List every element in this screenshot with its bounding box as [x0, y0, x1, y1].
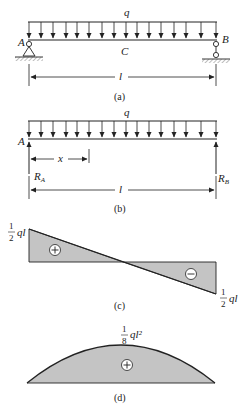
shear-right-value: 1 2 ql [220, 287, 238, 309]
panel-b-free-body-diagram: q A RA RB [17, 106, 230, 215]
point-label-a: A [17, 135, 25, 147]
panel-a-simply-supported-beam: q A [15, 6, 230, 103]
span-dimension-a [29, 64, 216, 86]
support-label-a: A [17, 36, 25, 48]
svg-text:1: 1 [122, 324, 127, 334]
position-label-x: x [57, 152, 63, 164]
caption-c: (c) [114, 300, 125, 312]
span-label-l: l [119, 183, 122, 195]
span-dimension-b [29, 176, 216, 199]
panel-d-bending-moment-diagram: 1 8 ql² (d) [27, 324, 215, 404]
panel-c-shear-force-diagram: 1 2 ql 1 2 ql (c) [8, 221, 238, 312]
svg-text:1: 1 [221, 287, 226, 297]
caption-d: (d) [114, 392, 126, 404]
reaction-label-rb: RB [217, 172, 230, 186]
distributed-load-arrows [29, 121, 216, 137]
svg-text:ql: ql [17, 226, 26, 238]
distributed-load-arrows [29, 22, 216, 38]
svg-text:ql²: ql² [130, 328, 143, 340]
support-label-b: B [222, 33, 229, 45]
svg-text:1: 1 [9, 221, 14, 231]
caption-b: (b) [114, 203, 126, 215]
caption-a: (a) [114, 91, 125, 103]
moment-peak-value: 1 8 ql² [121, 324, 143, 346]
shear-left-value: 1 2 ql [8, 221, 26, 243]
svg-text:ql: ql [229, 292, 238, 304]
load-label-q: q [124, 6, 130, 18]
beam-diagram-figure: q A [0, 0, 248, 410]
positive-sign-icon [50, 245, 61, 256]
negative-sign-icon [186, 269, 197, 280]
positive-sign-icon [122, 360, 133, 371]
span-label-l: l [119, 70, 122, 82]
svg-text:2: 2 [9, 233, 14, 243]
load-label-q: q [124, 106, 130, 118]
midpoint-label-c: C [121, 45, 129, 57]
svg-text:2: 2 [221, 299, 226, 309]
svg-text:8: 8 [122, 336, 127, 346]
reaction-label-ra: RA [33, 170, 46, 184]
